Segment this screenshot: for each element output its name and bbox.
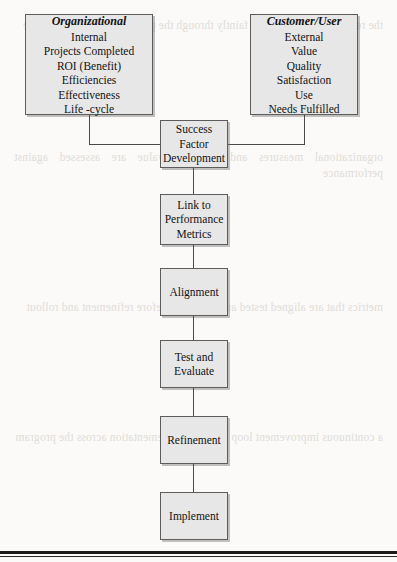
connector-customer-user-vertical: [304, 115, 305, 145]
box-success-factor-development-line-0: Success: [176, 122, 212, 137]
box-customer-user-item-3: Satisfaction: [277, 73, 331, 88]
connector-customer-user-horizontal: [228, 144, 305, 145]
box-customer-user-header: Customer/User: [267, 13, 342, 29]
box-alignment-line-0: Alignment: [169, 285, 218, 300]
box-refinement-line-0: Refinement: [167, 433, 221, 448]
box-customer-user-item-1: Value: [291, 44, 317, 59]
box-customer-user-item-2: Quality: [287, 59, 322, 74]
box-implement[interactable]: Implement: [160, 492, 228, 540]
box-organizational[interactable]: Organizational Internal Projects Complet…: [25, 14, 153, 115]
box-customer-user-item-4: Use: [295, 88, 313, 103]
box-organizational-item-0: Internal: [71, 30, 107, 45]
box-test-and-evaluate[interactable]: Test and Evaluate: [160, 340, 228, 388]
footer-rule: [0, 551, 397, 554]
connector-organizational-vertical: [89, 115, 90, 145]
box-customer-user-item-0: External: [285, 30, 324, 45]
box-organizational-item-4: Effectiveness: [58, 88, 120, 103]
box-organizational-item-1: Projects Completed: [44, 44, 134, 59]
box-test-and-evaluate-line-1: Evaluate: [174, 364, 214, 379]
figure-page: the reverse page text shows faintly thro…: [0, 0, 397, 562]
connector-refinement-to-implement: [193, 464, 194, 492]
connector-success-to-link: [193, 168, 194, 194]
box-success-factor-development-line-1: Factor: [179, 137, 208, 152]
box-link-to-performance-metrics-line-0: Link to: [177, 198, 211, 213]
box-organizational-item-2: ROI (Benefit): [57, 59, 121, 74]
connector-alignment-to-test: [193, 316, 194, 340]
connector-link-to-alignment: [193, 245, 194, 268]
box-success-factor-development-line-2: Development: [163, 151, 225, 166]
box-link-to-performance-metrics[interactable]: Link to Performance Metrics: [160, 194, 228, 245]
box-customer-user[interactable]: Customer/User External Value Quality Sat…: [250, 14, 358, 115]
connector-test-to-refinement: [193, 388, 194, 416]
box-success-factor-development[interactable]: Success Factor Development: [160, 120, 228, 168]
box-implement-line-0: Implement: [169, 509, 219, 524]
box-alignment[interactable]: Alignment: [160, 268, 228, 316]
box-link-to-performance-metrics-line-1: Performance: [165, 212, 224, 227]
box-organizational-item-3: Efficiencies: [62, 73, 117, 88]
footer-rule-secondary: [0, 556, 397, 557]
box-refinement[interactable]: Refinement: [160, 416, 228, 464]
box-organizational-header: Organizational: [52, 13, 127, 29]
box-test-and-evaluate-line-0: Test and: [175, 350, 213, 365]
connector-organizational-horizontal: [89, 144, 160, 145]
box-link-to-performance-metrics-line-2: Metrics: [176, 227, 211, 242]
